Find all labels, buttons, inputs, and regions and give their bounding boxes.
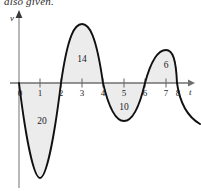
velocity-time-chart: v t 0 1 2 3 4 5 6 7 8 20 14 10 6	[0, 0, 201, 191]
velocity-time-figure: also given.	[0, 0, 201, 191]
x-tick-label-0: 0	[18, 88, 23, 98]
area-label-20: 20	[37, 116, 47, 126]
x-tick-label-7: 7	[164, 88, 169, 98]
shaded-areas	[19, 24, 177, 178]
x-tick-label-1: 1	[38, 88, 43, 98]
x-tick-label-2: 2	[59, 88, 64, 98]
x-tick-label-8: 8	[176, 88, 181, 98]
area-label-6: 6	[164, 60, 169, 70]
x-tick-label-3: 3	[80, 88, 85, 98]
x-tick-label-5: 5	[122, 88, 127, 98]
y-axis-label: v	[10, 13, 14, 23]
x-tick-label-6: 6	[143, 88, 148, 98]
area-label-10: 10	[119, 102, 129, 112]
x-tick-label-4: 4	[101, 88, 106, 98]
x-axis-label: t	[189, 87, 192, 97]
area-label-14: 14	[77, 54, 87, 64]
